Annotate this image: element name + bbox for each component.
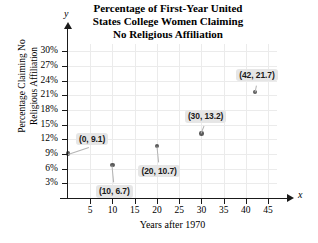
y-axis-line xyxy=(67,28,68,199)
y-axis-tick xyxy=(62,95,68,96)
y-axis-tick-label-wrap: 18% xyxy=(10,110,58,111)
gridline-vertical xyxy=(90,44,91,198)
y-axis-tick-label-wrap: 3% xyxy=(10,183,58,184)
y-axis-tick xyxy=(62,139,68,140)
x-axis-tick-label: 15 xyxy=(123,205,147,215)
data-point-label: (20, 10.7) xyxy=(138,165,179,178)
x-axis-tick-label: 10 xyxy=(100,205,124,215)
y-axis-tick-label-wrap: 27% xyxy=(10,66,58,67)
y-axis-tick-label-wrap: 6% xyxy=(10,169,58,170)
y-axis-tick-label-wrap: 30% xyxy=(10,51,58,52)
y-axis-tick xyxy=(62,51,68,52)
y-axis-letter: y xyxy=(64,8,68,19)
y-axis-tick-label: 6% xyxy=(12,163,58,173)
y-axis-tick-label: 24% xyxy=(12,75,58,85)
x-axis-tick xyxy=(90,198,91,204)
data-point-label: (10, 6.7) xyxy=(96,185,133,198)
y-axis-tick xyxy=(62,66,68,67)
x-axis-tick xyxy=(201,198,202,204)
y-axis-tick xyxy=(62,169,68,170)
x-axis-tick xyxy=(179,198,180,204)
chart-figure: Percentage of First-Year United States C… xyxy=(0,0,318,243)
x-axis-tick-label: 30 xyxy=(189,205,213,215)
y-axis-tick-label-wrap: 15% xyxy=(10,125,58,126)
gridline-vertical xyxy=(268,44,269,198)
chart-title-line-3: No Religious Affiliation xyxy=(62,28,274,41)
y-axis-tick-label: 27% xyxy=(12,60,58,70)
x-axis-tick-label: 35 xyxy=(212,205,236,215)
x-axis-tick xyxy=(268,198,269,204)
data-point-label: (42, 21.7) xyxy=(236,69,277,82)
x-axis-tick-label: 45 xyxy=(256,205,280,215)
y-axis-tick-label: 12% xyxy=(12,133,58,143)
x-axis-tick xyxy=(112,198,113,204)
x-axis-tick-label: 40 xyxy=(234,205,258,215)
gridline-vertical xyxy=(135,44,136,198)
x-axis-tick-label: 20 xyxy=(145,205,169,215)
y-axis-tick-label: 21% xyxy=(12,89,58,99)
y-axis-tick-label-wrap: 24% xyxy=(10,81,58,82)
y-axis-tick-label-wrap: 12% xyxy=(10,139,58,140)
plot-area: (0, 9.1)(10, 6.7)(20, 10.7)(30, 13.2)(42… xyxy=(68,44,277,198)
y-axis-tick-label: 15% xyxy=(12,119,58,129)
x-axis-arrow-icon xyxy=(287,194,294,202)
x-axis-tick-label: 5 xyxy=(78,205,102,215)
chart-title: Percentage of First-Year United States C… xyxy=(62,2,274,41)
x-axis-line xyxy=(60,198,288,199)
chart-title-line-2: States College Women Claiming xyxy=(62,15,274,28)
y-axis-tick-label: 9% xyxy=(12,148,58,158)
x-axis-tick xyxy=(157,198,158,204)
y-axis-tick-label: 30% xyxy=(12,45,58,55)
y-axis-tick xyxy=(62,81,68,82)
chart-title-line-1: Percentage of First-Year United xyxy=(62,2,274,15)
x-axis-tick xyxy=(246,198,247,204)
gridline-vertical xyxy=(246,44,247,198)
y-axis-arrow-icon xyxy=(64,22,72,29)
x-axis-tick-label: 25 xyxy=(167,205,191,215)
x-axis-tick xyxy=(224,198,225,204)
x-axis-letter: x xyxy=(298,189,302,200)
y-axis-tick xyxy=(62,125,68,126)
x-axis-tick xyxy=(135,198,136,204)
y-axis-tick-label: 3% xyxy=(12,177,58,187)
y-axis-tick-label-wrap: 9% xyxy=(10,154,58,155)
y-axis-tick xyxy=(62,154,68,155)
y-axis-tick-label-wrap: 21% xyxy=(10,95,58,96)
data-point-label: (0, 9.1) xyxy=(76,133,108,146)
x-axis-title: Years after 1970 xyxy=(68,219,277,230)
y-axis-tick-label: 18% xyxy=(12,104,58,114)
y-axis-tick xyxy=(62,110,68,111)
data-point-label: (30, 13.2) xyxy=(185,110,226,123)
y-axis-tick xyxy=(62,183,68,184)
